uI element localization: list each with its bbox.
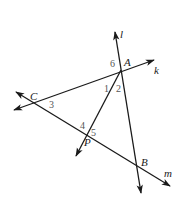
point-label-a: A [123,56,131,68]
point-label-p: P [83,136,91,148]
line-label-l: l [120,28,123,40]
angle-label-2: 2 [116,83,121,94]
angle-label-1: 1 [104,83,109,94]
line-label-k: k [154,64,160,76]
line-label-m: m [164,167,172,179]
point-label-b: B [141,156,148,168]
line-k [14,60,154,110]
angle-label-4: 4 [80,120,85,131]
angle-label-6: 6 [110,58,115,69]
line-m [16,92,170,186]
angle-label-5: 5 [91,127,96,138]
angle-label-3: 3 [49,99,54,110]
point-label-c: C [30,90,38,102]
geometry-diagram: l k m A B C P 6 1 2 3 4 5 [0,0,183,210]
